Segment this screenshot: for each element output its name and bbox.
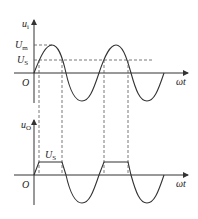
origin-top: O	[22, 77, 29, 88]
us-flat-label: US	[45, 149, 56, 162]
origin-bottom: O	[22, 179, 29, 190]
ui-label: ui	[22, 18, 29, 31]
uo-label: uO	[21, 119, 31, 132]
omega-t-label-bottom: ωt	[176, 178, 186, 189]
output-clipped-wave	[34, 162, 164, 203]
clipping-waveform-diagram: ui Um US O ωt uO US O ωt	[0, 0, 198, 219]
us-label: US	[17, 54, 28, 67]
output-waveform-plot: uO US O ωt	[14, 119, 188, 205]
omega-t-label-top: ωt	[176, 76, 186, 87]
input-waveform-plot: ui Um US O ωt	[14, 18, 188, 103]
um-label: Um	[15, 39, 28, 52]
